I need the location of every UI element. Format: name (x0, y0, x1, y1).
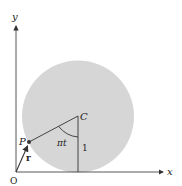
point-p-dot (27, 140, 31, 144)
angle-pi-t-label: πt (56, 138, 67, 148)
origin-label: O (10, 176, 17, 186)
point-p-label: P (18, 136, 26, 147)
y-axis-label: y (11, 11, 18, 22)
rolling-circle-diagram: y x O C P r πt 1 (0, 0, 182, 186)
vector-r-label: r (26, 153, 31, 163)
radius-one-label: 1 (82, 143, 88, 153)
x-axis-label: x (167, 166, 173, 177)
center-c-label: C (80, 111, 88, 122)
